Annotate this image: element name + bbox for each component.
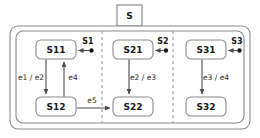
transition-e5-label: e5 [87, 96, 97, 105]
outer-state-box: S [117, 5, 142, 26]
transition-e3-e4-label: e3 / e4 [203, 73, 229, 82]
entry-point-s2-dot [164, 48, 168, 52]
entry-point-s1-label: S1 [82, 37, 94, 46]
entry-point-s1-dot [89, 48, 93, 52]
entry-point-s2-label: S2 [157, 37, 168, 46]
state-diagram: S S11 S12 S1 [0, 0, 260, 138]
state-diagram-canvas: S S11 S12 S1 [0, 0, 260, 138]
entry-point-s3-dot [237, 48, 241, 52]
state-s32[interactable]: S32 [186, 97, 226, 116]
state-s22[interactable]: S22 [113, 97, 153, 116]
state-s21-label: S21 [123, 45, 142, 55]
transition-e2-e3-label: e2 / e3 [130, 73, 156, 82]
state-s21[interactable]: S21 [113, 40, 153, 59]
transition-e1-e2-label: e1 / e2 [18, 73, 44, 82]
entry-point-s3: S3 [229, 37, 243, 53]
state-s31-label: S31 [196, 45, 215, 55]
state-s11[interactable]: S11 [36, 40, 76, 59]
outer-state-label: S [126, 11, 132, 21]
transition-e4-label: e4 [68, 73, 78, 82]
entry-point-s2: S2 [156, 37, 169, 53]
state-s12-label: S12 [46, 102, 65, 112]
state-s32-label: S32 [196, 102, 215, 112]
state-s31[interactable]: S31 [186, 40, 226, 59]
entry-point-s3-label: S3 [231, 37, 242, 46]
state-s12[interactable]: S12 [36, 97, 76, 116]
state-s22-label: S22 [123, 102, 142, 112]
state-s11-label: S11 [46, 45, 65, 55]
